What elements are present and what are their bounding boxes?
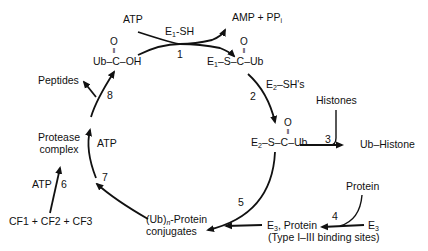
arrows-layer xyxy=(0,0,428,251)
cf-label: CF1 + CF2 + CF3 xyxy=(9,215,92,227)
arrow-step-7 xyxy=(88,130,96,178)
protein-label: Protein xyxy=(346,180,379,192)
e1-s-ub-label: E1–S–C–Ub xyxy=(207,55,263,67)
step-6: 6 xyxy=(61,178,67,190)
arrow-step-6 xyxy=(50,168,60,213)
e3-protein-label: E3, Protein xyxy=(267,219,317,231)
protease-complex-label: Proteasecomplex xyxy=(38,131,80,155)
step-4: 4 xyxy=(332,210,338,222)
step-8: 8 xyxy=(107,89,113,101)
atp-input: ATP xyxy=(123,13,143,25)
step-1: 1 xyxy=(177,48,183,60)
e3-label: E3 xyxy=(368,219,379,231)
histones-label: Histones xyxy=(316,94,357,106)
step-7: 7 xyxy=(102,171,108,183)
arrow-step-5 xyxy=(208,152,275,230)
step-2: 2 xyxy=(250,90,256,102)
atp-step-7: ATP xyxy=(97,137,117,149)
e1-sh-label: E1-SH xyxy=(165,25,194,37)
amp-ppi-label: AMP + PPi xyxy=(232,11,282,23)
atp-step-6: ATP xyxy=(32,178,52,190)
step-3: 3 xyxy=(325,133,331,145)
e2-sh-label: E2–SH's xyxy=(266,78,305,90)
ubiquitin-pathway-diagram: ATP E1-SH AMP + PPi 1 O ‖ Ub–C–OH O ‖ E1… xyxy=(0,0,428,251)
binding-sites-label: (Type I–III binding sites) xyxy=(268,231,379,243)
ub-histone-label: Ub–Histone xyxy=(360,138,415,150)
peptides-label: Peptides xyxy=(38,74,79,86)
conjugates-label: (Ub)n-Proteinconjugates xyxy=(146,213,207,237)
step-5: 5 xyxy=(238,196,244,208)
ub-cooh-label: Ub–C–OH xyxy=(93,55,141,67)
e2-s-ub-label: E2–S–C–Ub xyxy=(251,136,307,148)
